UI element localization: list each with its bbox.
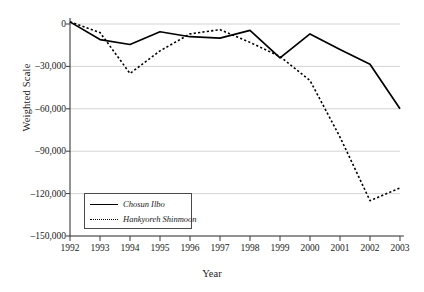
x-axis-tick-label: 1997	[211, 243, 230, 253]
legend-item-hankyoreh-shinmoon: Hankyoreh Shinmoon	[90, 212, 197, 226]
chart-container: Weighted Scale 0–30,000–60,000–90,000–12…	[0, 0, 424, 292]
x-axis-tick-label: 1992	[61, 243, 80, 253]
legend-label: Hankyoreh Shinmoon	[123, 215, 197, 224]
x-axis-tick-label: 1998	[241, 243, 260, 253]
x-axis-tick-label: 1995	[151, 243, 170, 253]
legend-item-chosun-ilbo: Chosun Ilbo	[90, 197, 165, 211]
chart-legend: Chosun Ilbo Hankyoreh Shinmoon	[84, 193, 192, 229]
x-axis-tick-label: 2000	[301, 243, 320, 253]
x-axis-tick-label: 2003	[391, 243, 410, 253]
x-axis-tick-label: 1996	[181, 243, 200, 253]
x-axis-tick-label: 1999	[271, 243, 290, 253]
legend-line-dotted-icon	[90, 215, 118, 224]
x-axis-title: Year	[0, 268, 424, 279]
legend-line-solid-icon	[90, 200, 118, 209]
x-axis-tick-label: 2002	[361, 243, 380, 253]
legend-label: Chosun Ilbo	[123, 200, 165, 209]
x-axis-tick-label: 1994	[121, 243, 140, 253]
x-axis-tick-label: 2001	[331, 243, 350, 253]
x-axis-tick-label: 1993	[91, 243, 110, 253]
